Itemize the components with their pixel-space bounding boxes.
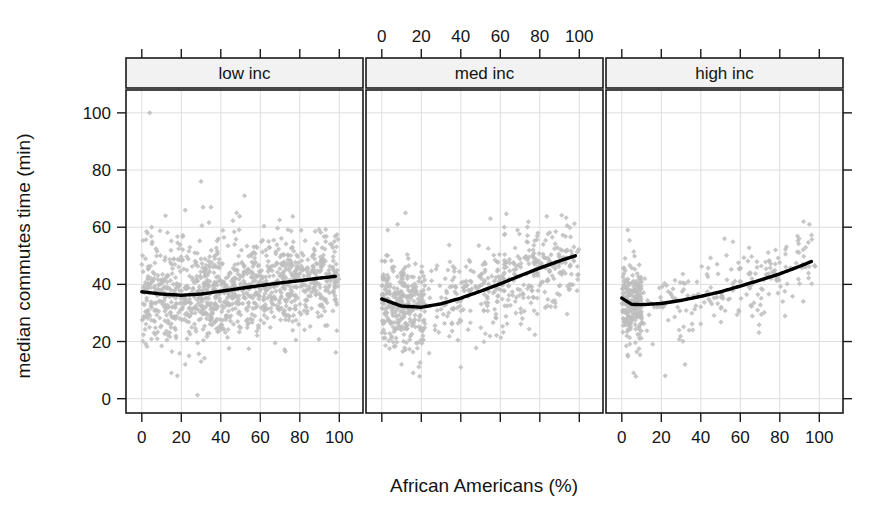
panel-group: low incmed inchigh inc — [126, 58, 843, 413]
panel-low-inc: low inc — [126, 58, 363, 413]
y-tick-label: 80 — [92, 161, 111, 180]
x-tick-label-bottom: 60 — [731, 428, 750, 447]
y-tick-label: 60 — [92, 218, 111, 237]
x-tick-label-top: 60 — [491, 27, 510, 46]
x-tick-label-top: 0 — [377, 27, 386, 46]
x-tick-label-bottom: 0 — [137, 428, 146, 447]
panel-background — [606, 90, 843, 413]
x-tick-label-bottom: 20 — [172, 428, 191, 447]
x-tick-label-bottom: 40 — [211, 428, 230, 447]
y-tick-label: 20 — [92, 333, 111, 352]
chart-figure: low incmed inchigh inc 02040608010002040… — [0, 0, 888, 513]
y-tick-label: 40 — [92, 275, 111, 294]
x-tick-label-bottom: 20 — [652, 428, 671, 447]
strip-label-high-inc: high inc — [695, 64, 754, 83]
panel-high-inc: high inc — [606, 58, 843, 413]
x-tick-label-top: 20 — [412, 27, 431, 46]
x-tick-label-bottom: 40 — [691, 428, 710, 447]
x-tick-label-top: 40 — [451, 27, 470, 46]
panel-background — [126, 90, 363, 413]
x-tick-label-bottom: 100 — [325, 428, 353, 447]
y-tick-label: 100 — [83, 104, 111, 123]
trellis-scatter-plot: low incmed inchigh inc 02040608010002040… — [0, 0, 888, 513]
strip-label-med-inc: med inc — [455, 64, 515, 83]
x-tick-label-bottom: 80 — [290, 428, 309, 447]
x-tick-label-bottom: 0 — [617, 428, 626, 447]
strip-label-low-inc: low inc — [219, 64, 271, 83]
x-tick-label-bottom: 100 — [805, 428, 833, 447]
x-tick-label-bottom: 60 — [251, 428, 270, 447]
x-axis-title: African Americans (%) — [390, 475, 578, 496]
x-tick-label-bottom: 80 — [770, 428, 789, 447]
x-tick-label-top: 80 — [530, 27, 549, 46]
panel-med-inc: med inc — [366, 58, 603, 413]
y-axis-title: median commutes time (min) — [13, 134, 34, 379]
y-tick-label: 0 — [102, 390, 111, 409]
x-tick-label-top: 100 — [565, 27, 593, 46]
